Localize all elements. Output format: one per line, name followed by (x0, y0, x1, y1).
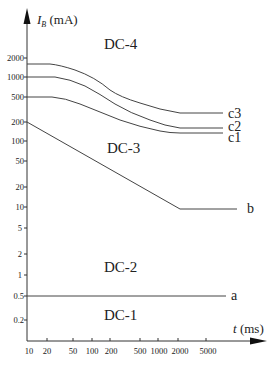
x-axis-title: t (ms) (233, 321, 264, 336)
svg-text:0.5: 0.5 (13, 291, 24, 301)
svg-text:2000: 2000 (172, 346, 189, 356)
y-tick-labels: 2000 1000 500 200 100 50 20 10 5 2 1 0.5… (7, 53, 24, 325)
curve-b (27, 122, 237, 209)
x-axis-arrow-icon (250, 338, 267, 345)
svg-text:100: 100 (11, 136, 24, 146)
curve-label-a: a (231, 288, 238, 303)
chart-canvas: IB (mA) t (ms) 2000 1000 500 200 100 50 … (0, 0, 277, 366)
curve-label-c1: c1 (228, 130, 241, 145)
svg-text:1: 1 (18, 270, 22, 280)
region-label-dc1: DC-1 (104, 307, 137, 323)
region-label-dc2: DC-2 (104, 259, 137, 275)
x-tick-labels: 10 20 50 100 200 500 1000 2000 5000 (25, 346, 217, 356)
svg-text:50: 50 (69, 346, 78, 356)
svg-text:0.2: 0.2 (13, 315, 24, 325)
svg-text:200: 200 (11, 117, 24, 127)
svg-text:5000: 5000 (200, 346, 217, 356)
svg-text:1000: 1000 (7, 72, 24, 82)
svg-text:10: 10 (16, 202, 25, 212)
svg-text:5: 5 (18, 223, 22, 233)
svg-text:200: 200 (105, 346, 118, 356)
curve-c3 (27, 64, 223, 113)
y-axis-arrow-icon (24, 8, 31, 24)
svg-text:500: 500 (11, 92, 24, 102)
curve-label-b: b (247, 201, 254, 216)
svg-text:2: 2 (18, 249, 22, 259)
y-axis-title: IB (mA) (36, 12, 78, 29)
svg-text:10: 10 (25, 346, 34, 356)
region-label-dc3: DC-3 (107, 140, 140, 156)
svg-text:1000: 1000 (151, 346, 168, 356)
region-label-dc4: DC-4 (104, 36, 138, 52)
curve-c2 (27, 77, 223, 128)
svg-text:20: 20 (43, 346, 52, 356)
svg-text:500: 500 (134, 346, 147, 356)
svg-text:100: 100 (86, 346, 99, 356)
svg-text:20: 20 (16, 182, 25, 192)
svg-text:2000: 2000 (7, 53, 24, 63)
svg-text:50: 50 (16, 156, 25, 166)
